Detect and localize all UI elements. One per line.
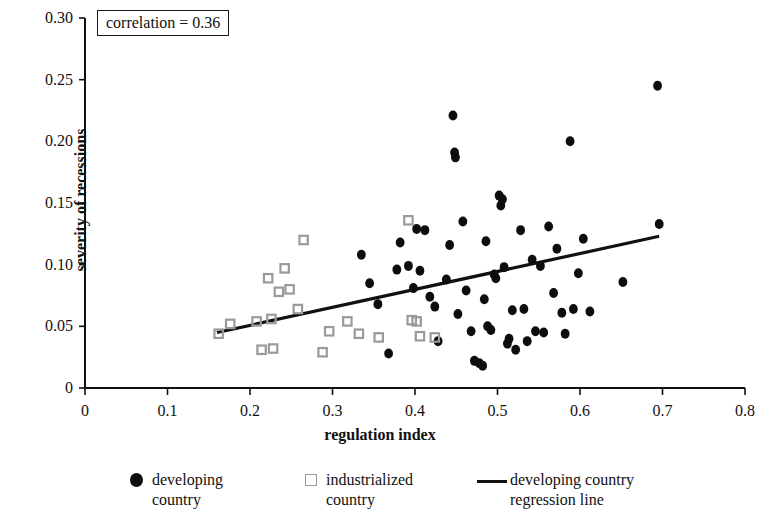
data-point-marker — [396, 237, 405, 247]
data-point-marker — [511, 345, 520, 355]
data-point-marker — [299, 236, 307, 244]
data-point-marker — [500, 262, 509, 272]
legend-label-industrialized-country: industrialized country — [326, 470, 413, 510]
data-point-marker — [451, 152, 460, 162]
legend-label-regression-line: developing country regression line — [510, 470, 634, 510]
data-point-marker — [523, 336, 532, 346]
data-point-marker — [655, 219, 664, 229]
legend-item-industrialized-country: industrialized country — [305, 470, 413, 510]
data-point-marker — [365, 278, 374, 288]
data-point-marker — [294, 305, 302, 313]
data-point-marker — [566, 136, 575, 146]
data-point-marker — [491, 273, 500, 283]
x-axis-tick-label: 0.6 — [570, 402, 590, 420]
data-point-marker — [404, 216, 412, 224]
data-point-marker — [445, 240, 454, 250]
data-point-marker — [520, 304, 529, 314]
data-point-marker — [318, 348, 326, 356]
data-point-marker — [487, 325, 496, 335]
data-point-marker — [442, 274, 451, 284]
data-point-marker — [544, 221, 553, 231]
data-point-marker — [355, 330, 363, 338]
data-point-marker — [375, 333, 383, 341]
data-point-marker — [373, 299, 382, 309]
legend-label-developing-country: developing country — [152, 470, 223, 510]
data-point-marker — [462, 286, 471, 296]
data-point-marker — [416, 266, 425, 276]
data-point-marker — [482, 236, 491, 246]
series-industrialized-country — [214, 216, 439, 356]
y-axis-tick-label: 0.05 — [0, 317, 73, 335]
x-axis-title: regulation index — [324, 426, 435, 444]
filled-circle-marker-icon — [130, 473, 143, 487]
data-point-marker — [257, 346, 265, 354]
regression-line — [217, 236, 659, 332]
y-axis-tick-label: 0.15 — [0, 194, 73, 212]
data-point-marker — [516, 225, 525, 235]
x-axis-tick-label: 0.7 — [653, 402, 673, 420]
x-axis-tick-label: 0.1 — [158, 402, 178, 420]
data-point-marker — [430, 302, 439, 312]
open-square-marker-icon — [305, 474, 317, 486]
data-point-marker — [557, 308, 566, 318]
data-point-marker — [528, 255, 537, 265]
y-axis-tick-label: 0.30 — [0, 9, 73, 27]
data-point-marker — [404, 261, 413, 271]
y-axis-title: severity of recessions — [72, 129, 90, 272]
data-point-marker — [619, 277, 628, 287]
data-point-marker — [343, 317, 351, 325]
data-point-marker — [425, 292, 434, 302]
data-point-marker — [392, 265, 401, 275]
data-point-marker — [269, 344, 277, 352]
data-point-marker — [505, 334, 514, 344]
data-point-marker — [264, 274, 272, 282]
correlation-annotation-label: correlation = 0.36 — [106, 14, 220, 32]
y-axis-tick-label: 0 — [0, 379, 73, 397]
x-axis-tick-label: 0.8 — [735, 402, 755, 420]
data-point-marker — [280, 264, 288, 272]
chart-legend: developing country industrialized countr… — [0, 470, 760, 521]
data-point-marker — [384, 348, 393, 358]
data-point-marker — [285, 285, 293, 293]
data-point-marker — [480, 294, 489, 304]
scatter-plot-figure: correlation = 0.36 regulation index seve… — [0, 0, 760, 521]
data-point-marker — [549, 288, 558, 298]
data-point-marker — [579, 234, 588, 244]
data-point-marker — [498, 194, 507, 204]
x-axis-tick-label: 0.2 — [240, 402, 260, 420]
data-point-marker — [478, 361, 487, 371]
data-point-marker — [421, 225, 430, 235]
data-point-marker — [467, 326, 476, 336]
data-point-marker — [553, 244, 562, 254]
data-point-marker — [449, 110, 458, 120]
data-point-marker — [409, 283, 418, 293]
data-point-marker — [569, 304, 578, 314]
data-point-marker — [325, 327, 333, 335]
data-point-marker — [539, 328, 548, 338]
y-axis-tick-label: 0.20 — [0, 132, 73, 150]
data-point-marker — [531, 326, 540, 336]
series-developing-country — [357, 81, 664, 371]
data-point-marker — [536, 261, 545, 271]
data-point-marker — [454, 309, 463, 319]
data-point-marker — [357, 250, 366, 260]
data-point-marker — [416, 332, 424, 340]
data-point-marker — [226, 320, 234, 328]
data-point-marker — [653, 81, 662, 91]
legend-item-developing-country: developing country — [130, 470, 223, 510]
data-point-marker — [275, 288, 283, 296]
x-axis-tick-label: 0 — [81, 402, 89, 420]
data-point-marker — [458, 217, 467, 227]
data-point-marker — [561, 329, 570, 339]
x-axis-tick-label: 0.3 — [323, 402, 343, 420]
data-point-marker — [586, 307, 595, 317]
y-axis-tick-label: 0.10 — [0, 256, 73, 274]
data-point-marker — [574, 268, 583, 278]
x-axis-tick-label: 0.4 — [405, 402, 425, 420]
data-point-marker — [508, 305, 517, 315]
correlation-annotation-box: correlation = 0.36 — [97, 10, 229, 36]
x-axis-tick-label: 0.5 — [488, 402, 508, 420]
legend-item-regression-line: developing country regression line — [477, 470, 634, 510]
y-axis-tick-label: 0.25 — [0, 71, 73, 89]
line-marker-icon — [477, 480, 507, 483]
